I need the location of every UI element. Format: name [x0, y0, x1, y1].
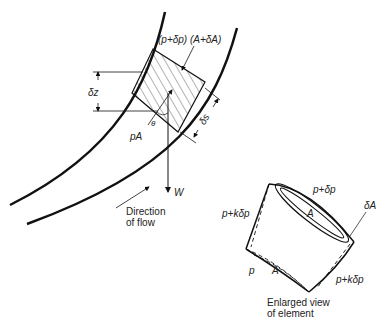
streamtube-diagram: δz δs (p+δp) (A+δA) pA θ W Direction of … — [0, 0, 386, 327]
direction-label-2: of flow — [126, 217, 156, 228]
pA-label: pA — [129, 131, 143, 142]
enl-left-label: p+kδp — [221, 208, 250, 219]
caption-line-1: Enlarged view — [267, 297, 331, 308]
caption-line-2: of element — [267, 308, 314, 319]
enl-p-label: p — [248, 265, 255, 276]
tube-wall-left — [10, 12, 165, 205]
enl-A-top-label: A — [306, 208, 314, 219]
theta-label: θ — [151, 119, 156, 128]
enl-top-label: p+δp — [312, 184, 336, 195]
weight-label: W — [174, 187, 185, 198]
direction-label-1: Direction — [126, 206, 165, 217]
enl-A-bottom-label: A — [271, 265, 279, 276]
dz-label: δz — [88, 87, 99, 98]
force-top-label: (p+δp) (A+δA) — [158, 34, 221, 45]
enl-dA-label: δA — [364, 200, 377, 211]
enl-right-label: p+kδp — [335, 274, 364, 285]
